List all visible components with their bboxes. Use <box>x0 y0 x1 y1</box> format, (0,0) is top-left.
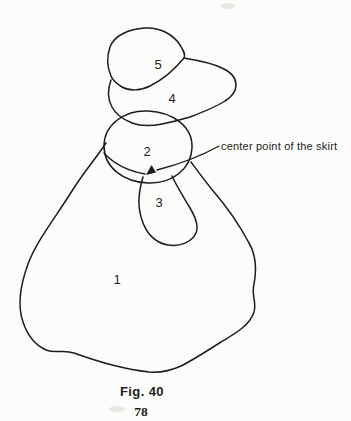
scan-smudge <box>221 3 235 9</box>
annotation-arrowhead <box>146 165 156 175</box>
scan-smudge <box>109 406 125 412</box>
part-label-5: 5 <box>154 57 161 72</box>
pattern-diagram: 1 2 3 4 5 center point of the skirt Fig.… <box>0 0 351 421</box>
skirt-waist-arc <box>104 153 145 174</box>
part-1-outline <box>20 143 256 372</box>
page-number: 78 <box>134 404 148 419</box>
annotation-leader-line <box>157 146 219 170</box>
part-label-4: 4 <box>168 91 175 106</box>
part-5-outline <box>108 28 185 90</box>
book-page: 1 2 3 4 5 center point of the skirt Fig.… <box>0 0 351 421</box>
part-label-2: 2 <box>143 144 150 159</box>
part-3-outline <box>139 176 197 245</box>
annotation-label: center point of the skirt <box>221 140 337 152</box>
figure-caption: Fig. 40 <box>120 384 164 399</box>
part-label-3: 3 <box>155 195 162 210</box>
part-label-1: 1 <box>113 272 120 287</box>
